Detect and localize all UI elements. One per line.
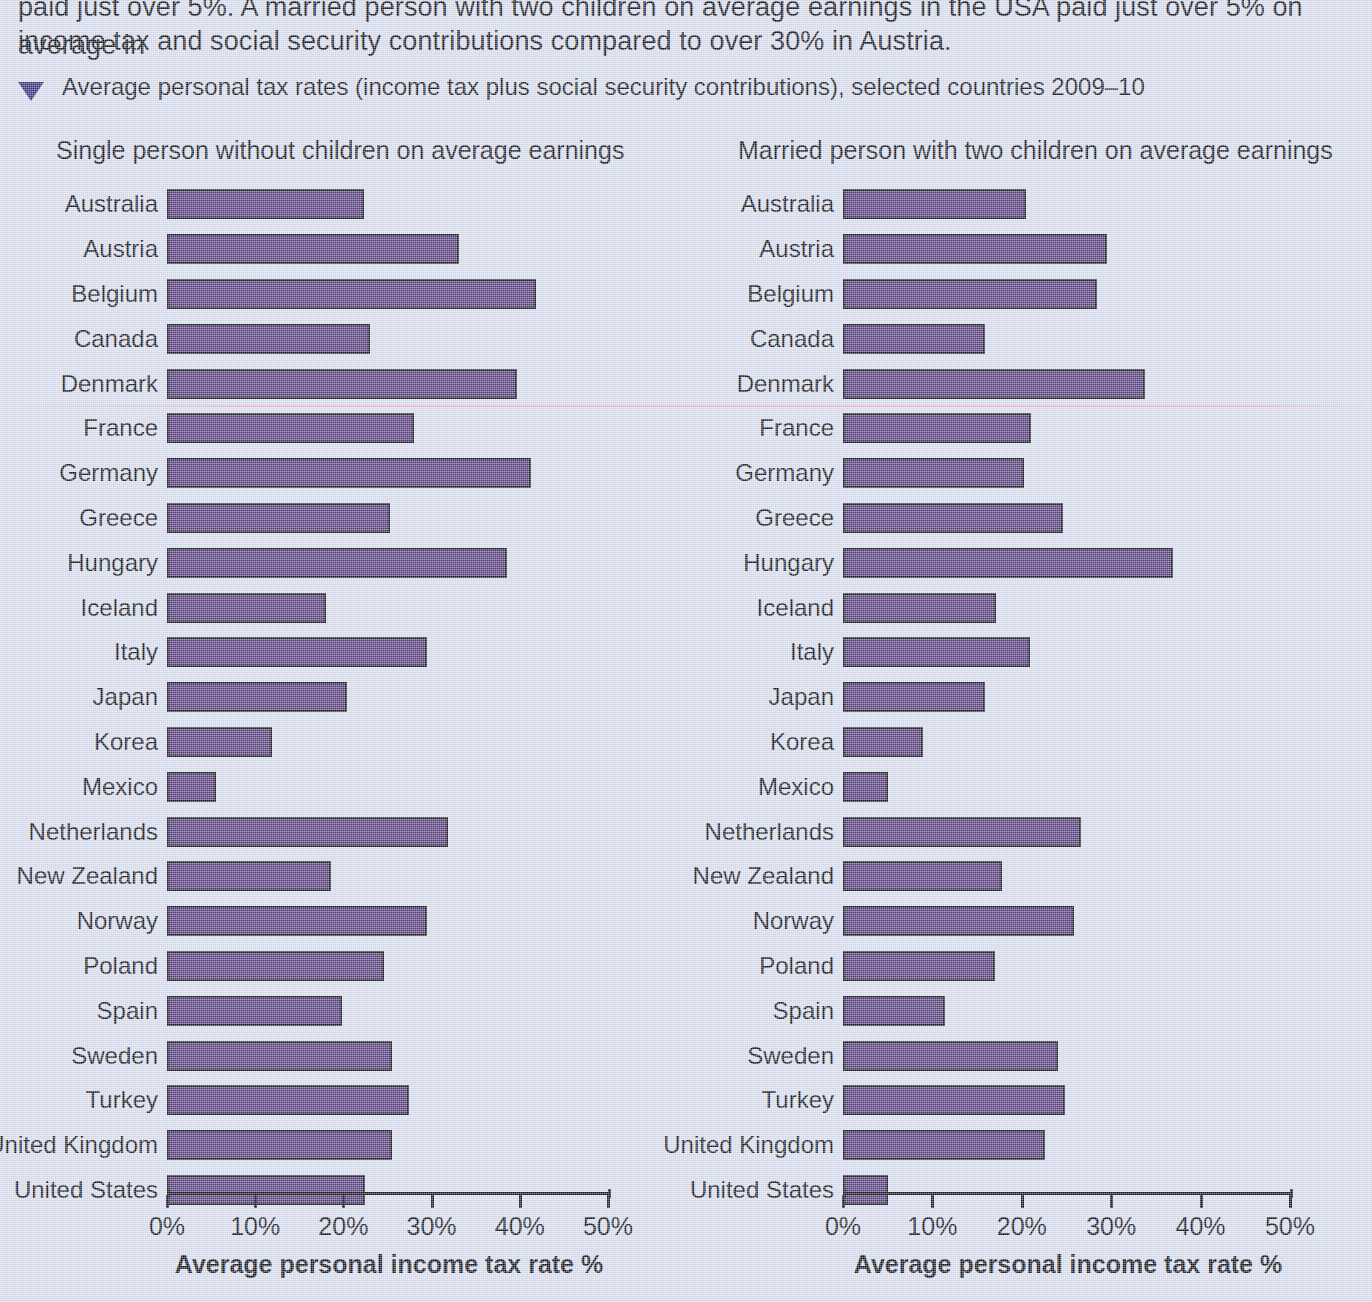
x-axis-tick — [254, 1195, 257, 1208]
bar-row: Australia — [8, 182, 668, 227]
x-axis-tick-label: 0% — [122, 1212, 212, 1241]
x-axis-line-right — [843, 1192, 1293, 1195]
category-label: Japan — [0, 684, 167, 710]
bar — [843, 817, 1081, 847]
bar-row: Italy — [8, 630, 668, 675]
bar — [167, 413, 414, 443]
category-label: Denmark — [634, 371, 843, 397]
x-axis-tick — [519, 1195, 522, 1208]
category-label: Italy — [0, 639, 167, 665]
bar-row: Poland — [8, 944, 668, 989]
body-paragraph-line-2: income tax and social security contribut… — [18, 22, 1354, 60]
bar-row: Poland — [690, 944, 1350, 989]
plot-area-right: AustraliaAustriaBelgiumCanadaDenmarkFran… — [690, 182, 1350, 1212]
bar — [167, 1175, 365, 1205]
bar — [167, 593, 326, 623]
category-label: Iceland — [0, 595, 167, 621]
x-axis-tick — [166, 1195, 169, 1208]
category-label: Greece — [634, 505, 843, 531]
bar — [167, 324, 370, 354]
category-label: France — [0, 415, 167, 441]
category-label: Austria — [634, 236, 843, 262]
x-axis-tick-label: 0% — [798, 1212, 888, 1241]
category-label: Spain — [634, 998, 843, 1024]
category-label: Poland — [634, 953, 843, 979]
x-axis-tick-label: 40% — [1156, 1212, 1246, 1241]
bar — [843, 503, 1063, 533]
bar — [167, 369, 517, 399]
x-axis-tick — [607, 1195, 610, 1208]
category-label: Norway — [634, 908, 843, 934]
bar — [167, 682, 347, 712]
bar-row: Hungary — [690, 540, 1350, 585]
bar — [843, 593, 996, 623]
category-label: Greece — [0, 505, 167, 531]
bar-row: Iceland — [8, 585, 668, 630]
x-axis-tick-label: 20% — [298, 1212, 388, 1241]
x-axis-title-right: Average personal income tax rate % — [843, 1250, 1293, 1279]
bar — [167, 817, 448, 847]
x-axis-tick — [1200, 1195, 1203, 1208]
category-label: Poland — [0, 953, 167, 979]
bar-row: Belgium — [690, 272, 1350, 317]
bar — [167, 189, 364, 219]
bar-row: Denmark — [8, 361, 668, 406]
bar-row: Canada — [8, 316, 668, 361]
x-axis-tick — [342, 1195, 345, 1208]
category-label: Korea — [634, 729, 843, 755]
bar — [167, 951, 384, 981]
bar-row: Belgium — [8, 272, 668, 317]
category-label: Japan — [634, 684, 843, 710]
chart-title-right: Married person with two children on aver… — [738, 136, 1333, 165]
bar — [167, 906, 427, 936]
bar — [843, 1085, 1065, 1115]
bar-row: Norway — [8, 899, 668, 944]
category-label: Canada — [634, 326, 843, 352]
category-label: Sweden — [634, 1043, 843, 1069]
bar-row: Korea — [690, 720, 1350, 765]
scanned-page: paid just over 5%. A married person with… — [0, 0, 1372, 1302]
category-label: France — [634, 415, 843, 441]
bar — [167, 637, 427, 667]
category-label: Turkey — [634, 1087, 843, 1113]
category-label: Germany — [634, 460, 843, 486]
bar-row: Australia — [690, 182, 1350, 227]
x-axis-tick-label: 10% — [887, 1212, 977, 1241]
bar-row: Denmark — [690, 361, 1350, 406]
bar-row: Turkey — [8, 1078, 668, 1123]
bar — [167, 279, 536, 309]
category-label: Hungary — [0, 550, 167, 576]
bar-row: Austria — [8, 227, 668, 272]
x-axis-line-left — [167, 1192, 611, 1195]
charts-container: Single person without children on averag… — [0, 132, 1372, 1292]
bar — [167, 548, 507, 578]
bar-row: Turkey — [690, 1078, 1350, 1123]
bar-rows-left: AustraliaAustriaBelgiumCanadaDenmarkFran… — [8, 182, 668, 1192]
bar — [167, 727, 272, 757]
bar-row: Iceland — [690, 585, 1350, 630]
bar — [843, 637, 1030, 667]
bar — [167, 772, 216, 802]
bar — [167, 1085, 409, 1115]
scan-artifact-line — [0, 405, 1372, 407]
bar — [167, 234, 459, 264]
category-label: Canada — [0, 326, 167, 352]
category-label: Turkey — [0, 1087, 167, 1113]
bar — [843, 413, 1031, 443]
x-axis-tick — [1110, 1195, 1113, 1208]
bar — [167, 503, 390, 533]
bar-row: Hungary — [8, 540, 668, 585]
category-label: Iceland — [634, 595, 843, 621]
x-axis-tick-label: 50% — [563, 1212, 653, 1241]
bar-row: Germany — [8, 451, 668, 496]
bar-row: Canada — [690, 316, 1350, 361]
category-label: Hungary — [634, 550, 843, 576]
category-label: Spain — [0, 998, 167, 1024]
category-label: Netherlands — [634, 819, 843, 845]
bar-row: Spain — [690, 988, 1350, 1033]
triangle-down-icon — [18, 82, 44, 101]
chart-title-left: Single person without children on averag… — [56, 136, 624, 165]
bar-rows-right: AustraliaAustriaBelgiumCanadaDenmarkFran… — [690, 182, 1350, 1192]
category-label: Australia — [634, 191, 843, 217]
category-label: United States — [0, 1177, 167, 1203]
